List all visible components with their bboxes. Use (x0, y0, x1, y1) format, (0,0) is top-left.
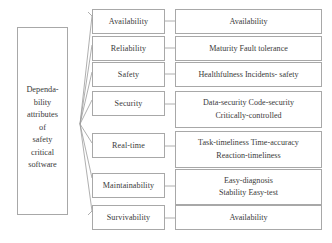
root-line-1: bility (34, 97, 52, 110)
root-line-5: critical (31, 147, 54, 160)
attribute-label: Safety (118, 70, 139, 79)
attribute-box-survivability: Survivability (92, 205, 165, 230)
sub-attribute-line: Reaction-timeliness (216, 150, 280, 163)
sub-attribute-line: Data-security Code-security (203, 97, 294, 110)
attribute-box-real-time: Real-time (92, 133, 165, 158)
sub-attribute-line: Easy-diagnosis (224, 175, 273, 188)
sub-attribute-line: Critically-controlled (215, 110, 281, 123)
attribute-label: Security (115, 99, 143, 108)
sub-attribute-line: Availability (229, 17, 267, 26)
attribute-box-maintainability: Maintainability (92, 173, 165, 198)
root-line-3: of (39, 122, 46, 135)
sub-attribute-line: Healthfulness Incidents- safety (198, 70, 298, 79)
root-line-0: Dependa- (26, 84, 58, 97)
attribute-box-safety: Safety (92, 62, 165, 87)
sub-attribute-box-reliability: Maturity Fault tolerance (175, 36, 322, 61)
attribute-label: Availability (109, 17, 148, 26)
attribute-box-reliability: Reliability (92, 36, 165, 61)
dependability-attributes-root: Dependa- bility attributes of safety cri… (17, 27, 68, 215)
attribute-label: Reliability (111, 44, 146, 53)
attribute-label: Real-time (112, 141, 145, 150)
sub-attribute-box-maintainability: Easy-diagnosis Stability Easy-test (175, 169, 322, 205)
sub-attribute-line: Maturity Fault tolerance (209, 44, 288, 53)
attribute-label: Maintainability (103, 181, 154, 190)
diagram-canvas: Dependa- bility attributes of safety cri… (0, 0, 332, 243)
sub-attribute-box-safety: Healthfulness Incidents- safety (175, 62, 322, 87)
attribute-box-security: Security (92, 91, 165, 116)
sub-attribute-line: Task-timeliness Time-accuracy (198, 137, 299, 150)
attribute-label: Survivability (107, 213, 151, 222)
sub-attribute-box-availability: Availability (175, 9, 322, 34)
root-line-6: software (28, 159, 57, 172)
attribute-box-availability: Availability (92, 9, 165, 34)
sub-attribute-box-real-time: Task-timeliness Time-accuracy Reaction-t… (175, 131, 322, 168)
sub-attribute-box-survivability: Availability (175, 205, 322, 230)
sub-attribute-box-security: Data-security Code-security Critically-c… (175, 91, 322, 128)
root-line-4: safety (33, 134, 53, 147)
sub-attribute-line: Availability (229, 213, 267, 222)
root-line-2: attributes (27, 109, 58, 122)
sub-attribute-line: Stability Easy-test (219, 187, 278, 200)
